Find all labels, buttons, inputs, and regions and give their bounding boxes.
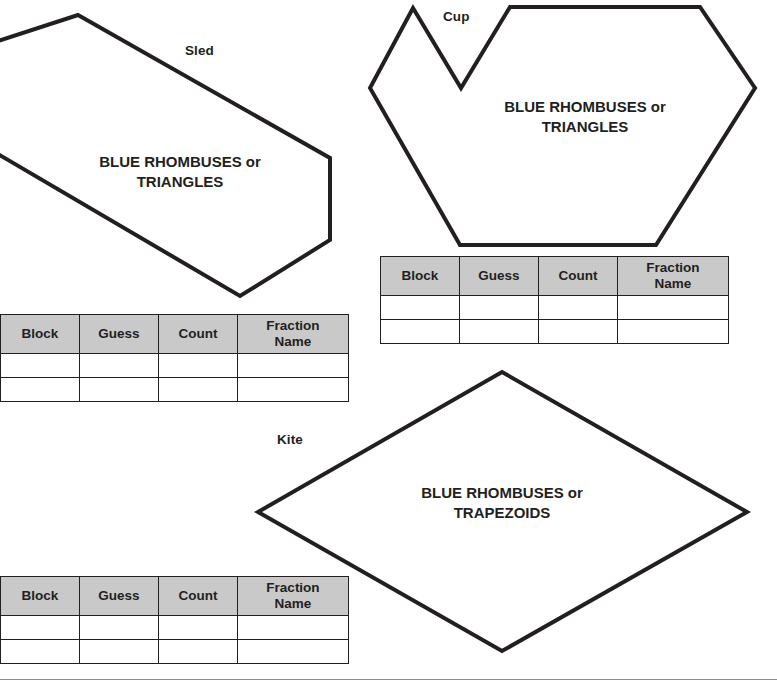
- cell-fraction-name[interactable]: [238, 354, 349, 378]
- column-header-block: Block: [1, 315, 80, 354]
- fraction-header-line-2: Name: [655, 276, 692, 291]
- table-row[interactable]: [381, 320, 729, 344]
- sled-block-table[interactable]: Block Guess Count Fraction Name: [0, 314, 349, 402]
- column-header-count: Count: [159, 577, 238, 616]
- cell-guess[interactable]: [80, 616, 159, 640]
- column-header-block: Block: [1, 577, 80, 616]
- kite-shape-fill-text: BLUE RHOMBUSES or TRAPEZOIDS: [377, 483, 627, 524]
- fraction-header-line-1: Fraction: [266, 318, 319, 333]
- sled-shape-label: Sled: [185, 43, 214, 58]
- column-header-block: Block: [381, 257, 460, 296]
- cell-guess[interactable]: [80, 378, 159, 402]
- table-header-row: Block Guess Count Fraction Name: [1, 577, 349, 616]
- cell-count[interactable]: [539, 320, 618, 344]
- fraction-header-line-1: Fraction: [646, 260, 699, 275]
- cell-count[interactable]: [539, 296, 618, 320]
- table-row[interactable]: [1, 354, 349, 378]
- kite-block-table[interactable]: Block Guess Count Fraction Name: [0, 576, 349, 664]
- cell-block[interactable]: [381, 320, 460, 344]
- table-row[interactable]: [1, 378, 349, 402]
- cell-count[interactable]: [159, 354, 238, 378]
- cell-guess[interactable]: [460, 296, 539, 320]
- table-header-row: Block Guess Count Fraction Name: [1, 315, 349, 354]
- column-header-count: Count: [539, 257, 618, 296]
- column-header-fraction-name: Fraction Name: [238, 577, 349, 616]
- table-row[interactable]: [1, 640, 349, 664]
- cup-fill-text-line-1: BLUE RHOMBUSES or: [460, 97, 710, 117]
- cell-fraction-name[interactable]: [618, 320, 729, 344]
- table-header-row: Block Guess Count Fraction Name: [381, 257, 729, 296]
- cell-block[interactable]: [1, 354, 80, 378]
- kite-shape-label: Kite: [277, 432, 303, 447]
- cup-fill-text-line-2: TRIANGLES: [460, 117, 710, 137]
- cell-block[interactable]: [381, 296, 460, 320]
- column-header-guess: Guess: [80, 577, 159, 616]
- column-header-guess: Guess: [80, 315, 159, 354]
- cup-block-table[interactable]: Block Guess Count Fraction Name: [380, 256, 729, 344]
- sled-shape-fill-text: BLUE RHOMBUSES or TRIANGLES: [55, 152, 305, 193]
- fraction-header-line-2: Name: [275, 596, 312, 611]
- cell-block[interactable]: [1, 616, 80, 640]
- cell-count[interactable]: [159, 378, 238, 402]
- worksheet-page: Sled BLUE RHOMBUSES or TRIANGLES Block G…: [0, 0, 777, 691]
- cell-guess[interactable]: [80, 354, 159, 378]
- cup-shape-label: Cup: [443, 9, 470, 24]
- cell-fraction-name[interactable]: [238, 616, 349, 640]
- sled-fill-text-line-2: TRIANGLES: [55, 172, 305, 192]
- cell-guess[interactable]: [80, 640, 159, 664]
- kite-fill-text-line-1: BLUE RHOMBUSES or: [377, 483, 627, 503]
- column-header-fraction-name: Fraction Name: [618, 257, 729, 296]
- cup-shape-fill-text: BLUE RHOMBUSES or TRIANGLES: [460, 97, 710, 138]
- footer-divider: [0, 679, 777, 680]
- cell-block[interactable]: [1, 378, 80, 402]
- fraction-header-line-2: Name: [275, 334, 312, 349]
- cell-guess[interactable]: [460, 320, 539, 344]
- kite-fill-text-line-2: TRAPEZOIDS: [377, 503, 627, 523]
- column-header-count: Count: [159, 315, 238, 354]
- table-row[interactable]: [381, 296, 729, 320]
- cell-fraction-name[interactable]: [238, 640, 349, 664]
- cell-count[interactable]: [159, 616, 238, 640]
- column-header-guess: Guess: [460, 257, 539, 296]
- fraction-header-line-1: Fraction: [266, 580, 319, 595]
- cell-count[interactable]: [159, 640, 238, 664]
- table-row[interactable]: [1, 616, 349, 640]
- cell-fraction-name[interactable]: [238, 378, 349, 402]
- cell-block[interactable]: [1, 640, 80, 664]
- cell-fraction-name[interactable]: [618, 296, 729, 320]
- column-header-fraction-name: Fraction Name: [238, 315, 349, 354]
- sled-fill-text-line-1: BLUE RHOMBUSES or: [55, 152, 305, 172]
